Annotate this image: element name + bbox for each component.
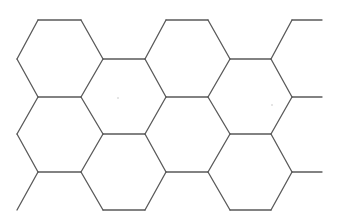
- hexagon-edge: [271, 97, 292, 134]
- hexagon-edge: [208, 172, 230, 210]
- speck-layer: [117, 97, 272, 105]
- hexagon-B: [81, 59, 166, 134]
- open-edge-layer: [17, 20, 322, 210]
- hexagon-edge: [17, 97, 38, 134]
- hexagon-edge: [81, 20, 103, 59]
- speck-dot: [271, 104, 272, 105]
- hexagon-edge: [208, 134, 230, 172]
- hexagon-edge: [208, 20, 230, 59]
- hexagon-grid-canvas: [0, 0, 339, 220]
- hexagon-edge: [81, 97, 103, 134]
- hexagon-grid: [0, 0, 339, 220]
- hexagon-edge: [208, 59, 230, 97]
- hexagon-edge: [145, 134, 166, 172]
- hexagon-J: [208, 134, 292, 210]
- open-edge: [271, 20, 292, 59]
- hexagon-edge: [208, 97, 230, 134]
- hexagon-A: [17, 20, 103, 97]
- hexagon-edge: [81, 59, 103, 97]
- hexagon-edge: [81, 134, 103, 172]
- hexagon-edge: [271, 172, 292, 210]
- hexagon-G: [145, 134, 230, 172]
- hexagon-D: [208, 59, 292, 134]
- hexagon-edge: [81, 172, 103, 210]
- open-edge: [17, 172, 38, 210]
- hexagon-F: [17, 97, 103, 172]
- hexagon-edge: [271, 59, 292, 97]
- hexagon-edge: [17, 134, 38, 172]
- hexagon-edge: [145, 97, 166, 134]
- hexagon-C: [145, 20, 230, 97]
- hexagon-edge: [17, 20, 38, 59]
- hexagon-edge: [145, 20, 166, 59]
- hexagon-layer: [17, 20, 292, 210]
- hexagon-edge: [145, 59, 166, 97]
- hexagon-edge: [271, 134, 292, 172]
- hexagon-edge: [17, 59, 38, 97]
- hexagon-I: [81, 172, 166, 210]
- speck-dot: [117, 97, 118, 98]
- hexagon-edge: [145, 172, 166, 210]
